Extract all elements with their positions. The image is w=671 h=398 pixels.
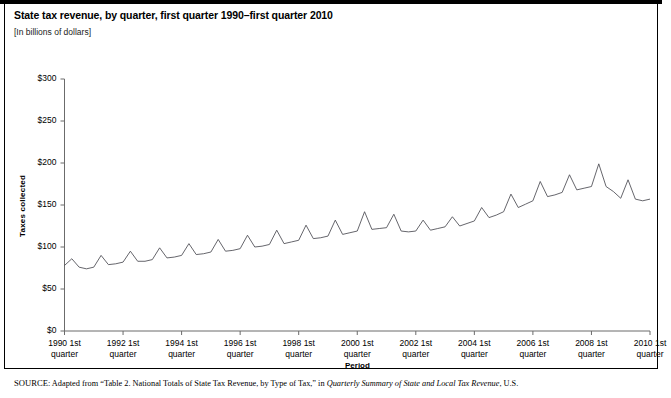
x-tick-label: 2006 1stquarter (503, 338, 563, 360)
y-tick-label: $200 (17, 157, 57, 167)
source-divider-rule (4, 368, 658, 369)
y-axis-ticks (61, 79, 65, 331)
source-text-part2: , U.S. (499, 379, 518, 388)
x-tick-label: 2002 1stquarter (386, 338, 446, 360)
y-tick-label: $0 (17, 325, 57, 335)
source-note: SOURCE: Adapted from “Table 2. National … (14, 378, 654, 389)
chart-axes (61, 79, 651, 335)
y-tick-label: $50 (17, 283, 57, 293)
y-tick-label: $100 (17, 241, 57, 251)
x-tick-label: 1996 1stquarter (210, 338, 270, 360)
x-tick-label: 1998 1stquarter (269, 338, 329, 360)
x-tick-label: 2010 1stquarter (620, 338, 671, 360)
x-axis-ticks (65, 331, 651, 335)
x-tick-label: 1992 1stquarter (93, 338, 153, 360)
source-text-part1: Adapted from “Table 2. National Totals o… (52, 379, 327, 388)
x-tick-label: 2004 1stquarter (444, 338, 504, 360)
y-tick-label: $150 (17, 199, 57, 209)
source-label: SOURCE (14, 378, 48, 388)
revenue-line-series (65, 164, 651, 269)
source-publication-title: Quarterly Summary of State and Local Tax… (327, 379, 500, 388)
x-tick-label: 2008 1stquarter (561, 338, 621, 360)
x-tick-label: 2000 1stquarter (327, 338, 387, 360)
x-tick-label: 1994 1stquarter (152, 338, 212, 360)
y-tick-label: $300 (17, 73, 57, 83)
x-tick-label: 1990 1stquarter (35, 338, 95, 360)
y-tick-label: $250 (17, 115, 57, 125)
